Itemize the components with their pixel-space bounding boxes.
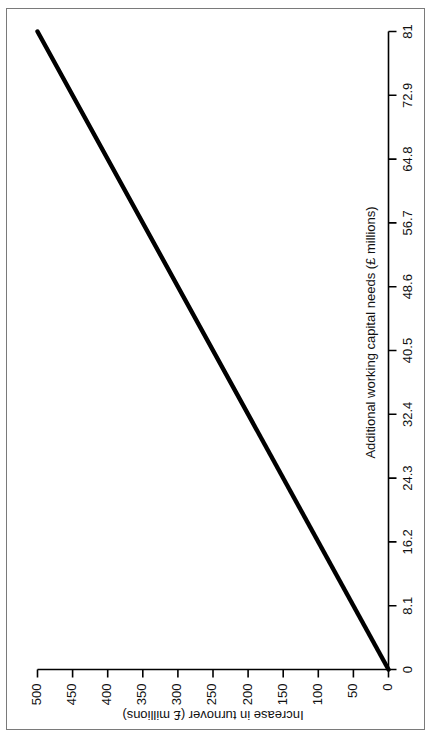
chart-page: 500 450 400 350 300 250 200 150 100 50 0… (0, 0, 441, 743)
x-axis-title: Additional working capital needs (£ mill… (362, 206, 377, 458)
y-tick-label: 150 (274, 684, 289, 706)
x-tick-label: 81 (399, 24, 414, 38)
y-tick-label: 250 (204, 684, 219, 706)
y-tick-label: 300 (169, 684, 184, 706)
x-tick-label: 0 (399, 666, 414, 673)
y-axis: 500 450 400 350 300 250 200 150 100 50 0… (28, 670, 394, 723)
y-tick-label: 50 (344, 684, 359, 698)
x-tick-label: 64.8 (399, 146, 414, 171)
y-tick-label: 0 (379, 684, 394, 691)
x-tick-label: 24.3 (399, 465, 414, 490)
x-axis: 0 8.1 16.2 24.3 32.4 40.5 48.6 56.7 64.8… (362, 24, 414, 673)
y-tick-label: 100 (309, 684, 324, 706)
series-line (37, 32, 388, 670)
x-tick-label: 32.4 (399, 402, 414, 427)
y-tick-label: 500 (28, 684, 43, 706)
x-tick-label: 72.9 (399, 83, 414, 108)
x-tick-label: 48.6 (399, 274, 414, 299)
plot-area: 500 450 400 350 300 250 200 150 100 50 0… (11, 11, 430, 733)
chart-svg: 500 450 400 350 300 250 200 150 100 50 0… (11, 11, 430, 733)
x-tick-label: 40.5 (399, 338, 414, 363)
y-tick-label: 200 (239, 684, 254, 706)
x-tick-label: 56.7 (399, 210, 414, 235)
y-tick-label: 400 (99, 684, 114, 706)
data-series-increase-in-turnover (37, 32, 388, 670)
x-tick-label: 16.2 (399, 529, 414, 554)
y-axis-title: Increase in turnover (£ millions) (122, 708, 303, 723)
y-tick-label: 350 (134, 684, 149, 706)
rotated-figure-wrapper: 500 450 400 350 300 250 200 150 100 50 0… (11, 11, 430, 733)
y-tick-label: 450 (64, 684, 79, 706)
x-tick-label: 8.1 (399, 597, 414, 615)
